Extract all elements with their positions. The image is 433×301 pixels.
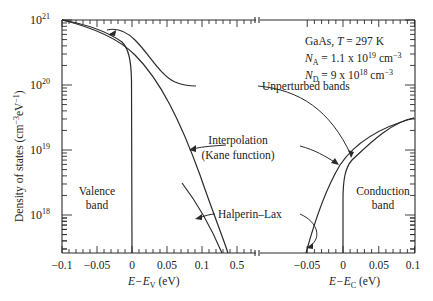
svg-text:0.05: 0.05 bbox=[157, 259, 177, 271]
x-axis-label-valence: E−EV (eV) bbox=[127, 275, 180, 290]
y-axis-label: Density of states (cm−3eV−1) bbox=[12, 90, 26, 222]
valence-unperturbed-curve bbox=[62, 20, 132, 253]
x-tick-labels-valence: −0.1 −0.05 0 0.05 0.1 0.5 bbox=[52, 259, 245, 271]
x-tick-labels-conduction: −0.05 0 0.05 0.1 bbox=[294, 259, 421, 271]
svg-text:0: 0 bbox=[129, 259, 135, 271]
svg-text:−0.1: −0.1 bbox=[52, 259, 73, 271]
svg-text:Conduction: Conduction bbox=[356, 185, 410, 197]
svg-text:1019: 1019 bbox=[30, 142, 50, 157]
svg-text:NA = 1.1 x 1019 cm−3: NA = 1.1 x 1019 cm−3 bbox=[304, 51, 402, 67]
svg-text:Valence: Valence bbox=[79, 185, 115, 197]
svg-text:0.5: 0.5 bbox=[230, 259, 245, 271]
valence-unperturbed-shifted-curve bbox=[107, 29, 196, 86]
svg-text:1020: 1020 bbox=[30, 77, 50, 92]
svg-text:Unperturbed bands: Unperturbed bands bbox=[262, 80, 350, 93]
svg-text:0.1: 0.1 bbox=[406, 259, 421, 271]
svg-text:Halperin–Lax: Halperin–Lax bbox=[218, 208, 282, 221]
parameter-box: GaAs, T = 297 K NA = 1.1 x 1019 cm−3 ND … bbox=[304, 35, 402, 84]
svg-text:(Kane function): (Kane function) bbox=[201, 149, 274, 162]
svg-text:0.05: 0.05 bbox=[369, 259, 389, 271]
curve-annotations: Unperturbed bands Interpolation (Kane fu… bbox=[79, 80, 410, 221]
density-of-states-chart: 1021 1020 1019 1018 Density of states (c… bbox=[0, 0, 433, 301]
y-tick-labels: 1021 1020 1019 1018 bbox=[30, 12, 50, 222]
svg-text:0.1: 0.1 bbox=[195, 259, 210, 271]
svg-text:band: band bbox=[372, 199, 395, 211]
svg-text:1021: 1021 bbox=[30, 12, 50, 27]
svg-text:−0.05: −0.05 bbox=[84, 259, 111, 271]
svg-text:1018: 1018 bbox=[30, 207, 50, 222]
svg-text:−0.05: −0.05 bbox=[294, 259, 321, 271]
x-axis-label-conduction: E−EC (eV) bbox=[328, 275, 380, 290]
valence-kane-curve bbox=[62, 20, 228, 253]
svg-text:Interpolation: Interpolation bbox=[208, 134, 268, 147]
svg-text:GaAs, T = 297 K: GaAs, T = 297 K bbox=[305, 35, 385, 48]
svg-text:band: band bbox=[86, 199, 109, 211]
svg-text:0: 0 bbox=[340, 259, 346, 271]
